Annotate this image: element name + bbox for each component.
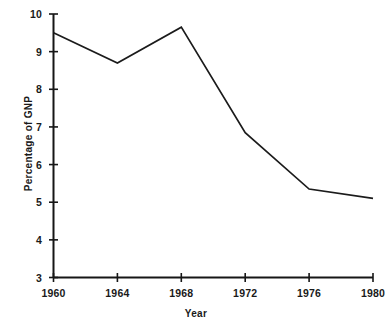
- chart-plot-area: [0, 0, 392, 331]
- y-tick-label-10: 10: [16, 9, 42, 20]
- data-series-line: [54, 27, 374, 198]
- y-tick-label-3: 3: [16, 273, 42, 284]
- x-axis-title: Year: [0, 308, 392, 319]
- x-tick-label-1964: 1964: [92, 288, 142, 299]
- y-axis-title: Percentage of GNP: [23, 64, 34, 224]
- x-tick-label-1972: 1972: [220, 288, 270, 299]
- x-tick-label-1960: 1960: [29, 288, 79, 299]
- x-tick-label-1968: 1968: [156, 288, 206, 299]
- y-tick-label-4: 4: [16, 235, 42, 246]
- x-tick-label-1980: 1980: [348, 288, 392, 299]
- y-tick-label-9: 9: [16, 47, 42, 58]
- x-tick-label-1976: 1976: [284, 288, 334, 299]
- line-chart: 345678910 196019641968197219761980 Perce…: [0, 0, 392, 331]
